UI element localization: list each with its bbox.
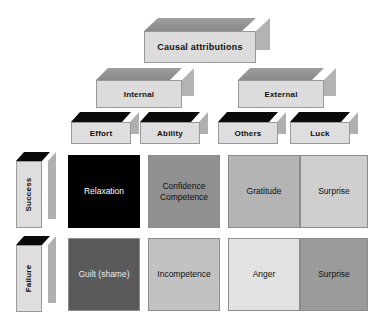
node-label: Ability (157, 129, 183, 138)
box-top-face (16, 236, 50, 245)
matrix-cell-failure-others[interactable]: Anger (228, 238, 300, 311)
cell-text: Anger (253, 269, 276, 280)
box-side-face (199, 112, 208, 144)
box-side-face (48, 236, 56, 312)
node-effort[interactable]: Effort (71, 112, 139, 144)
cell-text: Incompetence (157, 269, 210, 280)
box-side-face (256, 18, 270, 63)
box-top-face (96, 68, 182, 80)
box-front-face: External (238, 80, 324, 108)
box-front-face: Effort (71, 122, 131, 144)
box-side-face (48, 152, 56, 228)
box-top-face (238, 68, 324, 80)
box-front-face: Internal (96, 80, 182, 108)
node-label: Others (235, 129, 262, 138)
node-label: External (264, 90, 297, 99)
box-front-face: Luck (290, 122, 350, 144)
box-side-face (349, 112, 358, 144)
row-label-failure[interactable]: Failure (16, 236, 56, 312)
node-external[interactable]: External (238, 68, 336, 108)
cell-text: Guilt (shame) (78, 269, 129, 280)
node-label: Internal (124, 90, 155, 99)
node-luck[interactable]: Luck (290, 112, 358, 144)
cell-text: Gratitude (247, 186, 282, 197)
cell-text: Surprise (318, 269, 350, 280)
cell-text-line-2: Competence (160, 192, 208, 203)
matrix-cell-success-others[interactable]: Gratitude (228, 155, 300, 228)
matrix-cell-success-luck[interactable]: Surprise (300, 155, 368, 228)
box-top-face (218, 112, 278, 122)
box-top-face (71, 112, 131, 122)
box-side-face (130, 112, 139, 144)
box-front-face: Others (218, 122, 278, 144)
box-side-face (324, 68, 336, 108)
row-label-text: Success (25, 178, 34, 212)
matrix-cell-failure-ability[interactable]: Incompetence (148, 238, 220, 311)
node-label: Causal attributions (157, 42, 242, 52)
row-label-text: Failure (25, 265, 34, 293)
cell-text-line-1: Confidence (162, 181, 205, 192)
cell-text: Surprise (318, 186, 350, 197)
node-internal[interactable]: Internal (96, 68, 194, 108)
node-label: Effort (90, 129, 113, 138)
row-label-success[interactable]: Success (16, 152, 56, 228)
box-front-face: Causal attributions (144, 31, 256, 63)
matrix-cell-failure-effort[interactable]: Guilt (shame) (68, 238, 140, 311)
box-front-face: Ability (140, 122, 200, 144)
box-front-face: Success (16, 161, 42, 228)
node-label: Luck (310, 129, 329, 138)
matrix-cell-success-effort[interactable]: Relaxation (68, 155, 140, 228)
box-side-face (277, 112, 286, 144)
matrix-cell-success-ability[interactable]: Confidence Competence (148, 155, 220, 228)
matrix-cell-failure-luck[interactable]: Surprise (300, 238, 368, 311)
box-top-face (290, 112, 350, 122)
node-causal-attributions[interactable]: Causal attributions (144, 18, 270, 63)
box-top-face (140, 112, 200, 122)
box-side-face (182, 68, 194, 108)
box-top-face (144, 18, 256, 31)
box-top-face (16, 152, 50, 161)
causal-attributions-diagram: Causal attributions Internal External Ef… (0, 0, 377, 323)
node-others[interactable]: Others (218, 112, 286, 144)
node-ability[interactable]: Ability (140, 112, 208, 144)
box-front-face: Failure (16, 245, 42, 312)
cell-text: Relaxation (84, 186, 124, 197)
